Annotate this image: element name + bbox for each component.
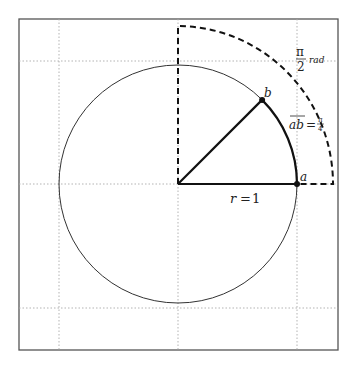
radius-label-eq: =	[240, 191, 251, 206]
arc-ab	[262, 100, 297, 184]
quarter-angle-label: π 2 rad	[296, 45, 325, 74]
point-a-label: a	[300, 170, 307, 184]
unit-circle-diagram: a b r = 1 ab = π 4 π 2 rad	[0, 0, 356, 371]
arc-length-label: ab = π 4	[289, 116, 324, 133]
radius-label-var: r	[230, 191, 237, 206]
quarter-fraction-num: π	[296, 45, 304, 59]
quarter-unit: rad	[309, 55, 325, 65]
point-b-label: b	[264, 86, 272, 100]
arc-fraction-den: 4	[318, 125, 323, 133]
arc-eq: =	[306, 118, 316, 132]
quarter-fraction-den: 2	[297, 60, 305, 74]
radius-line-b	[178, 100, 262, 184]
radius-label: r = 1	[230, 191, 260, 206]
arc-fraction-num: π	[318, 116, 323, 124]
radius-label-value: 1	[252, 191, 260, 206]
arc-name: ab	[289, 118, 304, 132]
